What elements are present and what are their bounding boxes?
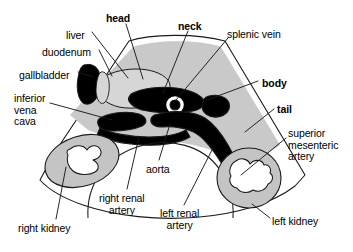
sma-lumen (170, 100, 180, 110)
label-liver: liver (66, 30, 85, 42)
label-left-renal-artery: left renal artery (160, 208, 199, 231)
figure-canvas: head liver duodenum gallbladder inferior… (0, 0, 353, 252)
label-left-kidney: left kidney (272, 216, 318, 228)
label-right-kidney: right kidney (18, 223, 71, 235)
label-duodenum: duodenum (42, 47, 91, 59)
duodenum-shape (96, 72, 109, 104)
label-gallbladder: gallbladder (19, 70, 69, 82)
label-inferior-vena-cava: inferior vena cava (14, 93, 45, 128)
label-splenic-vein: splenic vein (227, 29, 281, 41)
label-body: body (262, 78, 287, 90)
label-aorta: aorta (146, 164, 169, 176)
left-kidney-shape (217, 148, 281, 208)
splenic-vein-shape (202, 95, 229, 117)
label-head: head (106, 13, 130, 25)
label-superior-mesenteric-artery: superior mesenteric artery (288, 128, 338, 163)
label-neck: neck (178, 21, 202, 33)
label-right-renal-artery: right renal artery (99, 193, 145, 216)
label-tail: tail (277, 104, 292, 116)
